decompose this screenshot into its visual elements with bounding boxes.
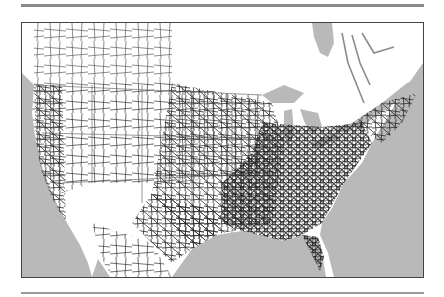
bottom-horizontal-rule xyxy=(21,292,424,294)
top-horizontal-rule xyxy=(21,4,424,7)
map-frame xyxy=(21,22,424,278)
network-map xyxy=(22,23,423,277)
canada-south xyxy=(34,23,172,85)
